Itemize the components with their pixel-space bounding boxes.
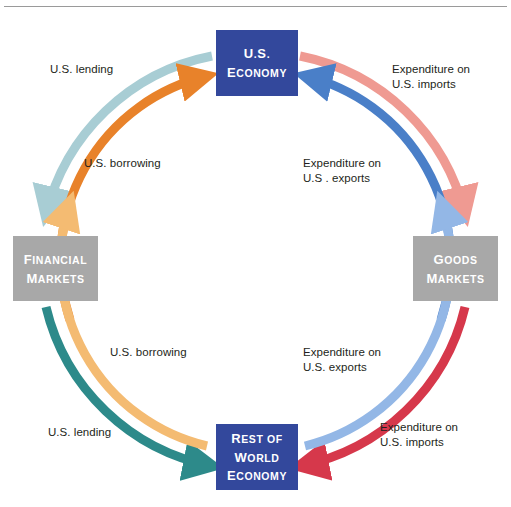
node-us-economy[interactable]: U.S. ECONOMY (216, 30, 298, 96)
node-financial-markets-line-2: MARKETS (26, 269, 84, 288)
node-financial-markets[interactable]: FINANCIAL MARKETS (13, 236, 98, 301)
flow-label-expenditure-us-imports-top: Expenditure on U.S. imports (392, 62, 470, 91)
flow-label-us-borrowing-bottom: U.S. borrowing (110, 345, 187, 360)
flow-label-expenditure-us-imports-bottom: Expenditure on U.S. imports (380, 420, 458, 449)
flow-label-us-lending-bottom: U.S. lending (48, 425, 111, 440)
node-us-economy-line-2: ECONOMY (227, 63, 287, 82)
node-row-line-2: WORLD (234, 448, 279, 467)
flow-label-us-lending-top: U.S. lending (50, 62, 113, 77)
flow-label-expenditure-us-exports-bottom: Expenditure on U.S. exports (303, 345, 381, 374)
node-rest-of-world-economy[interactable]: REST OF WORLD ECONOMY (216, 424, 298, 490)
flow-label-us-borrowing-top: U.S. borrowing (84, 156, 161, 171)
flow-label-expenditure-us-exports-top: Expenditure on U.S . exports (303, 156, 381, 185)
node-row-line-1: REST OF (231, 429, 283, 448)
node-goods-markets[interactable]: GOODS MARKETS (413, 236, 498, 301)
node-goods-markets-line-1: GOODS (433, 250, 477, 269)
diagram-canvas: U.S. ECONOMY REST OF WORLD ECONOMY FINAN… (0, 0, 511, 507)
node-goods-markets-line-2: MARKETS (426, 269, 484, 288)
node-financial-markets-line-1: FINANCIAL (24, 250, 88, 269)
node-row-line-3: ECONOMY (227, 466, 287, 485)
node-us-economy-line-1: U.S. (244, 44, 270, 63)
